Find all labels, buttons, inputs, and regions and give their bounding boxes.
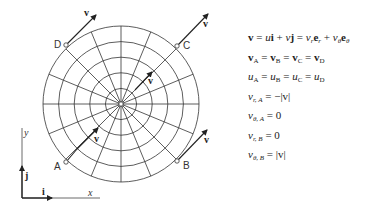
- vector-v-label: v: [148, 75, 153, 86]
- velocity-vectors: vvvvv: [66, 7, 209, 162]
- i-label: i: [42, 186, 45, 197]
- j-label: j: [24, 170, 28, 181]
- point-b-marker: [175, 159, 179, 163]
- equation-vtheta-a: vθ, A = 0: [248, 106, 349, 126]
- equation-vtheta-b: vθ, B = |v|: [248, 145, 349, 165]
- equation-velocity-decomposition: v = ui + vj = vrer + vθeθ: [248, 28, 349, 48]
- grid-spoke: [66, 49, 121, 104]
- equation-vr-a: vr, A = −|v|: [248, 87, 349, 107]
- point-c-marker: [175, 44, 179, 48]
- velocity-arrow: [66, 15, 96, 45]
- point-c-label: C: [183, 40, 190, 51]
- vector-v-label: v: [204, 134, 209, 145]
- x-axis-label: x: [87, 187, 93, 198]
- point-a-marker: [64, 160, 68, 164]
- point-d-label: D: [54, 39, 61, 50]
- vector-v-label: v: [94, 133, 99, 144]
- polar-grid-diagram: vvvvv ABCD y x i j: [0, 0, 240, 210]
- grid-spoke: [121, 104, 176, 159]
- equations-panel: v = ui + vj = vrer + vθeθ vA = vB = vC =…: [248, 28, 349, 165]
- equation-vr-b: vr, B = 0: [248, 126, 349, 146]
- velocity-arrow: [177, 130, 207, 161]
- y-axis-label: y: [23, 127, 29, 138]
- grid-spoke: [66, 104, 121, 159]
- point-b-label: B: [183, 160, 190, 171]
- equation-velocities-equal: vA = vB = vC = vD: [248, 48, 349, 68]
- center-marker: [119, 102, 123, 106]
- vector-v-label: v: [203, 18, 208, 29]
- point-a-label: A: [54, 161, 61, 172]
- equation-u-equal: uA = uB = uC = uD: [248, 67, 349, 87]
- point-d-marker: [64, 43, 68, 47]
- vector-v-label: v: [84, 7, 89, 18]
- polar-grid: [43, 26, 199, 182]
